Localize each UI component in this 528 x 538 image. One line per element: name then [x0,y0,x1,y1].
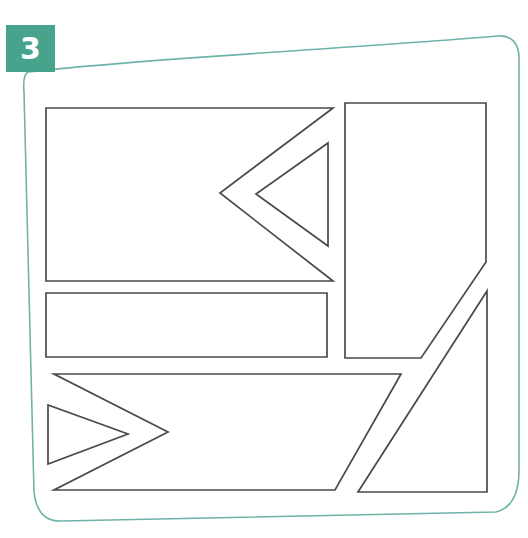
geometric-shapes-group [0,0,528,538]
shape-inner-triangle-right-pointing[interactable] [48,405,128,464]
panel-number-label: 3 [20,34,41,64]
panel-number-badge: 3 [6,25,55,72]
shape-tall-pentagon[interactable] [345,103,486,358]
shape-middle-rectangle[interactable] [46,293,327,357]
worksheet-panel: 3 [0,0,528,538]
